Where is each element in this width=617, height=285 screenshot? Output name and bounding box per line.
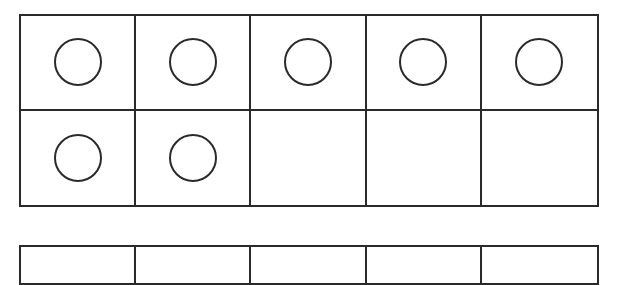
frame-cell: [136, 247, 251, 283]
frame-cell: [21, 247, 136, 283]
frame-cell: [136, 16, 251, 111]
frame-cell: [251, 111, 366, 206]
frame-cell: [251, 247, 366, 283]
circle-counter-icon: [169, 38, 217, 86]
circle-counter-icon: [399, 38, 447, 86]
frame-cell: [367, 16, 482, 111]
frame-cell: [136, 111, 251, 206]
circle-counter-icon: [169, 134, 217, 182]
ten-frame-second-partial: [19, 245, 599, 285]
frame-cell: [21, 16, 136, 111]
frame-cell: [251, 16, 366, 111]
circle-counter-icon: [54, 134, 102, 182]
frame-cell: [367, 247, 482, 283]
frame-cell: [482, 247, 597, 283]
circle-counter-icon: [54, 38, 102, 86]
frame-cell: [367, 111, 482, 206]
frame-cell: [482, 111, 597, 206]
circle-counter-icon: [515, 38, 563, 86]
frame-cell: [21, 111, 136, 206]
frame-cell: [482, 16, 597, 111]
ten-frame: [19, 14, 599, 207]
circle-counter-icon: [284, 38, 332, 86]
